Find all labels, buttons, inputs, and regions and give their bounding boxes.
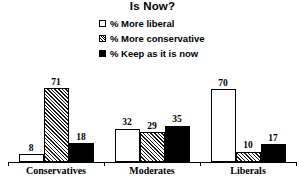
bar-slot: 35 (165, 62, 190, 162)
legend-item-more-conservative: % More conservative (99, 32, 249, 45)
plot-area: 8 71 18 Conservatives 32 (8, 62, 297, 163)
bar-slot: 18 (69, 62, 94, 162)
bar-conservatives-keep-as-is[interactable] (69, 143, 94, 162)
bar-liberals-more-conservative[interactable] (236, 152, 261, 162)
bar-slot: 17 (261, 62, 286, 162)
bar-value-liberals-more-liberal: 70 (218, 78, 228, 88)
axis-label-conservatives: Conservatives (8, 165, 104, 176)
bar-value-conservatives-more-conservative: 71 (51, 77, 61, 87)
bar-value-moderates-more-conservative: 29 (147, 121, 157, 131)
bar-slot: 29 (140, 62, 165, 162)
axis-label-liberals: Liberals (200, 165, 296, 176)
bar-chart: Is Now? % More liberal % More conservati… (0, 0, 305, 196)
axis-label-moderates: Moderates (104, 165, 200, 176)
bar-slot: 8 (19, 62, 44, 162)
bar-value-conservatives-keep-as-is: 18 (76, 132, 86, 142)
bar-slot: 71 (44, 62, 69, 162)
bar-conservatives-more-conservative[interactable] (44, 88, 69, 162)
bar-slot: 70 (211, 62, 236, 162)
legend-label-more-conservative: % More conservative (110, 34, 205, 44)
bar-value-liberals-keep-as-is: 17 (268, 133, 278, 143)
chart-title: Is Now? (0, 0, 305, 13)
chart-legend: % More liberal % More conservative % Kee… (99, 17, 249, 62)
bar-group-conservatives: 8 71 18 Conservatives (8, 62, 104, 162)
legend-label-keep-as-it-is-now: % Keep as it is now (110, 49, 198, 59)
bar-value-conservatives-more-liberal: 8 (29, 143, 34, 153)
bar-liberals-keep-as-is[interactable] (261, 144, 286, 162)
legend-swatch-black-icon (99, 50, 106, 57)
bar-group-moderates: 32 29 35 Moderates (104, 62, 200, 162)
legend-swatch-white-icon (99, 20, 106, 27)
bar-group-liberals: 70 10 17 Liberals (200, 62, 296, 162)
legend-label-more-liberal: % More liberal (110, 19, 174, 29)
bar-value-moderates-keep-as-is: 35 (172, 114, 182, 124)
bar-value-moderates-more-liberal: 32 (122, 117, 132, 127)
bar-conservatives-more-liberal[interactable] (19, 154, 44, 162)
bar-moderates-more-liberal[interactable] (115, 129, 140, 162)
bar-value-liberals-more-conservative: 10 (243, 140, 253, 150)
bar-slot: 32 (115, 62, 140, 162)
legend-item-more-liberal: % More liberal (99, 17, 249, 30)
bar-liberals-more-liberal[interactable] (211, 89, 236, 162)
legend-swatch-hatched-icon (99, 35, 106, 42)
bar-slot: 10 (236, 62, 261, 162)
bar-moderates-more-conservative[interactable] (140, 132, 165, 162)
x-axis-line (8, 162, 297, 163)
bar-moderates-keep-as-is[interactable] (165, 126, 190, 163)
legend-item-keep-as-is: % Keep as it is now (99, 47, 249, 60)
axis-tick-end (296, 162, 297, 166)
